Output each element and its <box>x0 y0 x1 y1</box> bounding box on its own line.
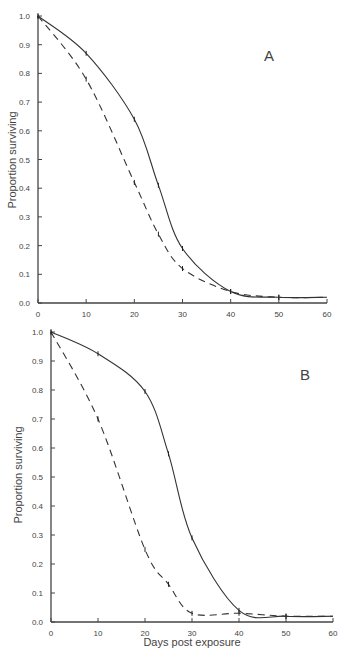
y-tick-label: 0.3 <box>19 213 31 222</box>
y-tick-label: 1.0 <box>19 12 31 21</box>
panel-a-axes: 0.00.10.20.30.40.50.60.70.80.91.00102030… <box>19 12 332 319</box>
y-tick-label: 0.1 <box>32 589 44 598</box>
panel-a-label: A <box>264 47 274 64</box>
y-tick-label: 0.0 <box>32 618 44 627</box>
panel-a-plot <box>38 14 327 300</box>
y-tick-label: 0.9 <box>32 357 44 366</box>
series-solid-line <box>38 16 327 298</box>
series-solid-line <box>51 332 333 618</box>
x-tick-label: 50 <box>274 310 283 319</box>
panel-a-y-label: Proportion surviving <box>6 111 18 208</box>
panel-b-y-label: Proportion surviving <box>12 426 24 523</box>
x-tick-label: 60 <box>323 310 332 319</box>
y-tick-label: 0.7 <box>19 98 31 107</box>
x-tick-label: 60 <box>329 629 338 638</box>
y-tick-label: 0.7 <box>32 415 44 424</box>
y-tick-label: 0.3 <box>32 531 44 540</box>
series-dashed-line <box>51 332 333 616</box>
panel-b-plot <box>51 330 333 619</box>
panel-a-chart: 0.00.10.20.30.40.50.60.70.80.91.00102030… <box>6 12 332 319</box>
x-tick-label: 0 <box>36 310 41 319</box>
x-tick-label: 30 <box>178 310 187 319</box>
y-tick-label: 0.2 <box>19 242 31 251</box>
y-tick-label: 0.9 <box>19 41 31 50</box>
y-tick-label: 1.0 <box>32 328 44 337</box>
y-tick-label: 0.2 <box>32 560 44 569</box>
y-tick-label: 0.1 <box>19 270 31 279</box>
figure: 0.00.10.20.30.40.50.60.70.80.91.00102030… <box>0 0 344 658</box>
x-tick-label: 0 <box>49 629 54 638</box>
x-tick-label: 50 <box>282 629 291 638</box>
x-tick-label: 10 <box>82 310 91 319</box>
y-tick-label: 0.5 <box>32 473 44 482</box>
panel-b-axes: 0.00.10.20.30.40.50.60.70.80.91.00102030… <box>32 328 338 638</box>
panel-b-chart: 0.00.10.20.30.40.50.60.70.80.91.00102030… <box>12 328 338 648</box>
y-tick-label: 0.0 <box>19 299 31 308</box>
panel-b-label: B <box>300 366 310 383</box>
y-tick-label: 0.5 <box>19 156 31 165</box>
y-tick-label: 0.6 <box>19 127 31 136</box>
y-tick-label: 0.6 <box>32 444 44 453</box>
x-tick-label: 20 <box>130 310 139 319</box>
y-tick-label: 0.4 <box>32 502 44 511</box>
series-dashed-line <box>38 16 327 298</box>
x-tick-label: 40 <box>226 310 235 319</box>
y-tick-label: 0.4 <box>19 184 31 193</box>
y-tick-label: 0.8 <box>32 386 44 395</box>
y-tick-label: 0.8 <box>19 69 31 78</box>
panel-b-x-label: Days post exposure <box>143 636 240 648</box>
x-tick-label: 10 <box>94 629 103 638</box>
